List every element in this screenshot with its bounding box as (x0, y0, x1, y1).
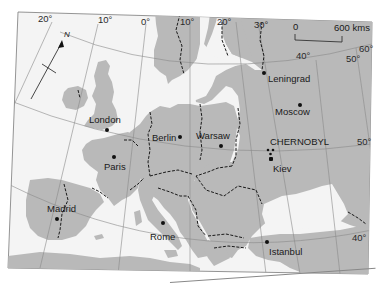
longitude-label: 10° (98, 15, 112, 25)
latitude-label: 60° (359, 44, 373, 54)
city-marker-istanbul (265, 240, 269, 244)
city-label-london: London (89, 115, 121, 125)
city-label-warsaw: Warsaw (196, 131, 230, 141)
scale-start-label: 0 (293, 22, 298, 32)
latitude-label: 40° (352, 233, 366, 243)
latitude-label: 50° (357, 137, 371, 147)
city-marker-paris (112, 155, 116, 159)
city-marker-london (105, 128, 109, 132)
longitude-label: 30° (254, 20, 268, 30)
longitude-label: 20° (217, 17, 231, 27)
scale-end-label: 600 kms (334, 23, 370, 33)
city-label-madrid: Madrid (47, 204, 76, 214)
city-marker-kiev (269, 157, 273, 161)
city-marker-warsaw (219, 144, 223, 148)
city-label-leningrad: Leningrad (268, 74, 310, 84)
city-label-kiev: Kiev (273, 164, 291, 174)
longitude-label: 10° (180, 17, 194, 27)
special-site-label-chernobyl: CHERNOBYL (270, 137, 329, 147)
europe-map (0, 0, 376, 298)
longitude-label: 40° (296, 51, 310, 61)
longitude-label: 50° (346, 54, 360, 64)
map-page: 20° 10° 0° 10° 20° 30° 40° 50° 60° 50° 4… (0, 0, 376, 298)
city-label-rome: Rome (150, 232, 175, 242)
longitude-label: 20° (38, 14, 52, 24)
city-label-paris: Paris (104, 162, 126, 172)
city-label-moscow: Moscow (275, 107, 310, 117)
north-label: N (64, 31, 70, 39)
city-marker-leningrad (262, 71, 266, 75)
longitude-label: 0° (141, 17, 150, 27)
city-label-istanbul: Istanbul (269, 247, 302, 257)
city-marker-rome (161, 221, 165, 225)
city-marker-madrid (55, 217, 59, 221)
city-label-berlin: Berlin (152, 133, 176, 143)
city-marker-berlin (178, 135, 182, 139)
